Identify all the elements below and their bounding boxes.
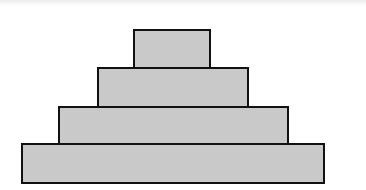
top-edge-shading — [0, 0, 366, 6]
pyramid-tier-upper-middle — [97, 67, 249, 108]
pyramid-tier-top — [133, 29, 211, 69]
pyramid-tier-bottom — [21, 143, 325, 184]
pyramid-tier-lower-middle — [58, 106, 289, 146]
